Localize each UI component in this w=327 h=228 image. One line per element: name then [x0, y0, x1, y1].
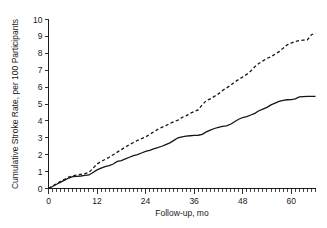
y-tick-label-5: 5	[38, 99, 43, 109]
x-tick-label-24: 24	[141, 196, 151, 206]
chart-figure: 012345678910 01224364860 Follow-up, mo C…	[0, 0, 327, 228]
chart-plot-area: 012345678910 01224364860 Follow-up, mo C…	[0, 0, 327, 228]
y-tick-label-2: 2	[38, 150, 43, 160]
y-tick-label-7: 7	[38, 65, 43, 75]
x-tick-label-48: 48	[238, 196, 248, 206]
x-axis-tick-labels: 01224364860	[46, 196, 296, 206]
y-tick-label-10: 10	[33, 15, 43, 25]
y-tick-label-1: 1	[38, 167, 43, 177]
y-tick-label-8: 8	[38, 48, 43, 58]
y-tick-label-3: 3	[38, 133, 43, 143]
y-tick-label-0: 0	[38, 184, 43, 194]
series-dashed-line	[49, 33, 316, 188]
x-tick-label-0: 0	[46, 196, 51, 206]
x-tick-label-36: 36	[189, 196, 199, 206]
axis-lines	[49, 20, 316, 189]
y-axis-title: Cumulative Stroke Rate, per 100 Particip…	[10, 19, 20, 189]
x-axis-title: Follow-up, mo	[155, 208, 209, 218]
y-tick-label-6: 6	[38, 82, 43, 92]
series-solid-line	[49, 96, 316, 188]
x-tick-label-12: 12	[92, 196, 102, 206]
y-tick-label-9: 9	[38, 31, 43, 41]
y-axis-tick-labels: 012345678910	[33, 15, 43, 194]
x-tick-label-60: 60	[286, 196, 296, 206]
data-series-group	[49, 33, 316, 188]
y-tick-label-4: 4	[38, 116, 43, 126]
